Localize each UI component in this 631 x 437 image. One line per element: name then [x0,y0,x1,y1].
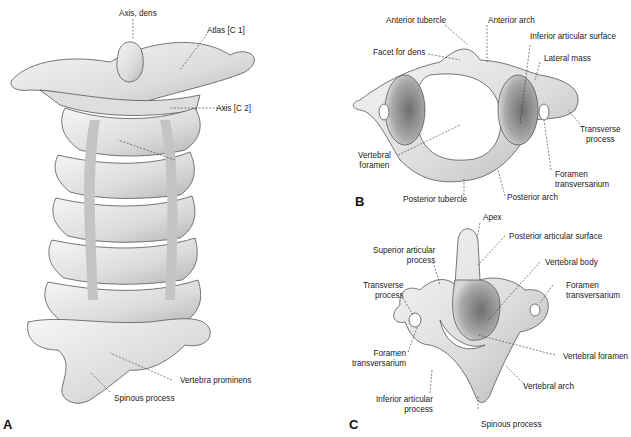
label-posterior-articular-surface: Posterior articular surface [509,232,602,242]
label-vertebral-foramen-c: Vertebral foramen [563,352,628,362]
label-facet-for-dens: Facet for dens [373,48,425,58]
label-anterior-tubercle: Anterior tubercle [386,16,446,26]
label-transverse-process-c: Transverse process [363,281,404,300]
label-spinous-process-a: Spinous process [114,394,175,404]
label-line: Transverse [580,125,621,135]
label-lateral-mass: Lateral mass [544,54,591,64]
label-line: foramen [358,161,391,171]
label-spinous-process-c: Spinous process [481,420,542,430]
label-axis-dens: Axis, dens [119,9,157,19]
label-vertebral-arch: Vertebral arch [523,382,574,392]
label-posterior-arch: Posterior arch [507,193,558,203]
label-inferior-articular-process: Inferior articular process [376,395,433,414]
label-foramen-transversarium-c-left: Foramen transversarium [352,349,406,368]
label-line: process [373,256,435,266]
label-line: transversarium [352,359,406,369]
label-anterior-arch: Anterior arch [488,16,535,26]
label-superior-articular-process: Superior articular process [373,246,435,265]
label-inferior-articular-surface: Inferior articular surface [530,32,616,42]
label-apex: Apex [483,213,502,223]
label-posterior-tubercle: Posterior tubercle [403,195,467,205]
panel-label-c: C [349,417,358,432]
label-line: Inferior articular [376,395,433,405]
label-line: Superior articular [373,246,435,256]
label-line: transversarium [555,180,609,190]
label-line: Transverse [363,281,404,291]
label-line: process [363,291,404,301]
label-vertebral-body: Vertebral body [545,258,598,268]
label-line: Foramen [555,170,609,180]
panel-label-a: A [3,417,12,432]
label-line: transversarium [566,291,620,301]
label-line: Vertebral [358,151,391,161]
cervical-spine-drawing [11,42,255,403]
label-vertebral-foramen-b: Vertebral foramen [358,151,391,170]
anatomy-illustration [0,0,631,437]
label-foramen-transversarium-c-right: Foramen transversarium [566,281,620,300]
label-vertebra-prominens: Vertebra prominens [180,376,251,386]
label-line: Foramen [566,281,620,291]
label-foramen-transversarium-b: Foramen transversarium [555,170,609,189]
label-atlas-c1: Atlas [C 1] [207,26,245,36]
label-transverse-process-b: Transverse process [580,125,621,144]
label-axis-c2: Axis [C 2] [216,104,251,114]
label-line: process [580,135,621,145]
panel-label-b: B [355,194,364,209]
label-line: Foramen [352,349,406,359]
label-line: process [376,405,433,415]
